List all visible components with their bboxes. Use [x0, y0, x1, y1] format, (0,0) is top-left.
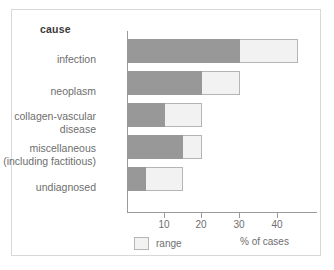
- x-tick-mark-30: [239, 213, 240, 218]
- x-tick-label-20: 20: [195, 219, 206, 230]
- x-axis-line: [127, 212, 317, 213]
- value-axis-title: % of cases: [240, 236, 289, 247]
- x-tick-mark-20: [201, 213, 202, 218]
- bar-value-infection: [127, 39, 240, 63]
- range-swatch-icon: [134, 237, 149, 250]
- category-label-collagen-vascular-disease: collagen-vascular disease: [0, 110, 96, 135]
- x-tick-mark-40: [277, 213, 278, 218]
- x-tick-mark-10: [164, 213, 165, 218]
- category-label-infection: infection: [0, 53, 96, 66]
- bar-value-collagen-vascular-disease: [127, 103, 165, 127]
- category-label-miscellaneous: miscellaneous (including factitious): [0, 142, 96, 167]
- category-label-neoplasm: neoplasm: [0, 85, 96, 98]
- bar-value-miscellaneous: [127, 135, 183, 159]
- x-tick-label-40: 40: [271, 219, 282, 230]
- bar-value-undiagnosed: [127, 167, 146, 191]
- category-axis-title: cause: [40, 23, 71, 35]
- chart-figure: cause 10 20 30 40 infection neoplasm col…: [11, 9, 321, 256]
- bar-value-neoplasm: [127, 71, 202, 95]
- plot-area: cause 10 20 30 40 infection neoplasm col…: [12, 10, 320, 255]
- x-tick-label-10: 10: [158, 219, 169, 230]
- legend-label-range: range: [156, 238, 182, 249]
- chart-legend: range: [134, 237, 182, 250]
- category-label-undiagnosed: undiagnosed: [0, 181, 96, 194]
- x-tick-label-30: 30: [233, 219, 244, 230]
